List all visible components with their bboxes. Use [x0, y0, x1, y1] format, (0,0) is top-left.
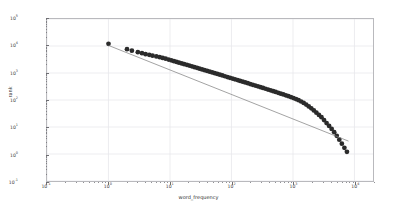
x-tick-label: 104: [351, 184, 359, 189]
axis-tick-mark: [226, 182, 227, 183]
axis-tick-mark: [46, 37, 47, 38]
axis-tick-mark: [331, 182, 332, 183]
axis-tick-mark: [127, 182, 128, 183]
axis-tick-mark: [46, 133, 47, 134]
axis-tick-mark: [337, 182, 338, 183]
x-tick-label: 100: [104, 184, 112, 189]
axis-tick-mark: [46, 19, 47, 20]
axis-tick-mark: [342, 182, 343, 183]
axis-tick-mark: [102, 182, 103, 183]
axis-tick-mark: [46, 136, 47, 137]
axis-tick-mark: [145, 182, 146, 183]
axis-tick-mark: [46, 138, 47, 139]
axis-tick-mark: [288, 182, 289, 183]
axis-tick-mark: [261, 182, 262, 183]
axis-tick-mark: [46, 26, 47, 27]
axis-tick-mark: [355, 182, 356, 185]
axis-tick-mark: [46, 174, 47, 175]
axis-tick-mark: [218, 182, 219, 183]
axis-tick-mark: [46, 169, 47, 170]
axis-tick-mark: [46, 79, 47, 80]
axis-tick-mark: [46, 142, 47, 143]
x-axis-label: word_frequency: [0, 194, 397, 200]
x-tick-label: 102: [228, 184, 236, 189]
axis-tick-mark: [46, 75, 47, 76]
axis-tick-mark: [46, 64, 47, 65]
axis-tick-mark: [46, 84, 47, 85]
axis-tick-mark: [275, 182, 276, 183]
axis-tick-mark: [65, 182, 66, 183]
x-tick-label: 10-1: [41, 184, 50, 189]
axis-tick-mark: [46, 106, 47, 107]
y-tick-label: 10-1: [9, 180, 18, 185]
axis-tick-mark: [232, 182, 233, 185]
axis-tick-mark: [46, 47, 47, 48]
axis-tick-mark: [156, 182, 157, 183]
axis-tick-mark: [83, 182, 84, 183]
axis-tick-mark: [46, 81, 47, 82]
axis-tick-mark: [46, 24, 47, 25]
axis-tick-mark: [46, 22, 47, 23]
x-tick-label: 103: [289, 184, 297, 189]
axis-tick-mark: [284, 182, 285, 183]
axis-tick-mark: [98, 182, 99, 183]
axis-tick-mark: [46, 101, 47, 102]
plot-area: [46, 18, 374, 182]
axis-tick-mark: [46, 132, 47, 133]
axis-tick-mark: [46, 51, 47, 52]
x-tick-label: 101: [166, 184, 174, 189]
y-tick-label: 104: [10, 43, 18, 48]
axis-tick-mark: [323, 182, 324, 183]
axis-tick-mark: [164, 182, 165, 183]
y-tick-label: 101: [10, 125, 18, 130]
axis-tick-mark: [46, 108, 47, 109]
axis-tick-mark: [46, 87, 47, 88]
axis-tick-mark: [46, 157, 47, 158]
axis-tick-mark: [167, 182, 168, 183]
axis-tick-mark: [46, 29, 47, 30]
axis-tick-mark: [293, 182, 294, 185]
axis-tick-mark: [46, 146, 47, 147]
axis-tick-mark: [46, 130, 47, 131]
axis-tick-mark: [46, 92, 47, 93]
axis-tick-mark: [213, 182, 214, 183]
axis-tick-mark: [312, 182, 313, 183]
axis-tick-mark: [76, 182, 77, 183]
axis-tick-mark: [46, 74, 47, 75]
axis-tick-mark: [89, 182, 90, 183]
axis-tick-mark: [349, 182, 350, 183]
axis-tick-mark: [137, 182, 138, 183]
y-tick-label: 102: [10, 98, 18, 103]
axis-tick-mark: [170, 182, 171, 185]
axis-tick-mark: [46, 48, 47, 49]
axis-tick-mark: [46, 21, 47, 22]
axis-tick-mark: [46, 119, 47, 120]
axis-tick-mark: [46, 54, 47, 55]
axis-tick-mark: [108, 182, 109, 185]
axis-tick-mark: [222, 182, 223, 183]
axis-tick-mark: [207, 182, 208, 183]
axis-tick-mark: [46, 161, 47, 162]
axis-tick-mark: [46, 104, 47, 105]
axis-tick-mark: [105, 182, 106, 183]
chart-figure: 10-1100101102103104105 10-11001011021031…: [0, 0, 397, 209]
y-tick-label: 105: [10, 16, 18, 21]
axis-tick-mark: [374, 182, 375, 183]
axis-tick-mark: [46, 60, 47, 61]
axis-tick-mark: [291, 182, 292, 183]
axis-tick-mark: [46, 114, 47, 115]
axis-tick-mark: [151, 182, 152, 183]
axis-tick-mark: [46, 103, 47, 104]
axis-tick-mark: [94, 182, 95, 183]
axis-tick-mark: [250, 182, 251, 183]
axis-tick-mark: [188, 182, 189, 183]
axis-tick-mark: [46, 156, 47, 157]
axis-tick-mark: [46, 32, 47, 33]
axis-tick-mark: [269, 182, 270, 183]
axis-tick-mark: [46, 166, 47, 167]
y-tick-label: 103: [10, 70, 18, 75]
axis-tick-mark: [46, 129, 47, 130]
axis-tick-mark: [46, 77, 47, 78]
axis-tick-mark: [346, 182, 347, 183]
y-axis-label: rank: [7, 86, 13, 97]
